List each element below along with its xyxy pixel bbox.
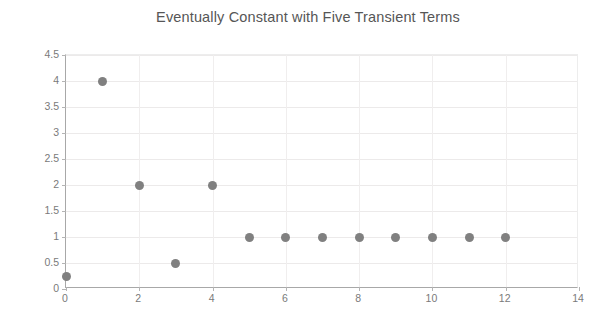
y-tick-label: 2.5 (19, 152, 59, 164)
tick-mark-x (579, 287, 580, 291)
x-tick-label: 8 (338, 292, 378, 304)
x-tick-label: 6 (265, 292, 305, 304)
chart-figure: Eventually Constant with Five Transient … (0, 0, 616, 325)
tick-mark-x (359, 287, 360, 291)
data-point (428, 233, 437, 242)
y-tick-label: 1 (19, 230, 59, 242)
data-point (355, 233, 364, 242)
y-axis-tick-labels: 00.511.522.533.544.5 (14, 54, 59, 288)
chart-title: Eventually Constant with Five Transient … (0, 9, 616, 25)
x-axis-tick-labels: 02468101214 (65, 292, 578, 312)
tick-mark-x (432, 287, 433, 291)
tick-mark-x (506, 287, 507, 291)
data-point (62, 272, 71, 281)
x-tick-label: 2 (118, 292, 158, 304)
data-point (245, 233, 254, 242)
y-tick-label: 3.5 (19, 100, 59, 112)
x-tick-label: 4 (192, 292, 232, 304)
data-point (135, 181, 144, 190)
data-point (465, 233, 474, 242)
y-tick-label: 1.5 (19, 204, 59, 216)
data-point (171, 259, 180, 268)
tick-mark-x (66, 287, 67, 291)
x-tick-label: 10 (411, 292, 451, 304)
x-tick-label: 12 (485, 292, 525, 304)
data-point (281, 233, 290, 242)
data-point (318, 233, 327, 242)
tick-mark-x (213, 287, 214, 291)
tick-mark-x (286, 287, 287, 291)
data-point (208, 181, 217, 190)
x-tick-label: 14 (558, 292, 598, 304)
scatter-points-layer (66, 55, 577, 287)
data-point (501, 233, 510, 242)
y-tick-label: 2 (19, 178, 59, 190)
y-tick-label: 4.5 (19, 48, 59, 60)
data-point (391, 233, 400, 242)
data-point (98, 77, 107, 86)
x-tick-label: 0 (45, 292, 85, 304)
y-tick-label: 3 (19, 126, 59, 138)
y-tick-label: 0.5 (19, 256, 59, 268)
plot-area (65, 54, 578, 288)
y-tick-label: 4 (19, 74, 59, 86)
tick-mark-x (139, 287, 140, 291)
